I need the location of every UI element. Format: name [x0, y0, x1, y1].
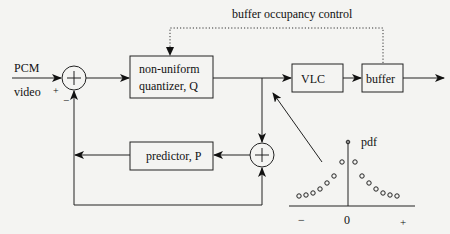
pdf-point: [367, 181, 371, 185]
minus-sign-label: −: [63, 94, 69, 106]
encoder-diagram: buffer occupancy control PCM video + − n…: [0, 0, 450, 234]
pdf-point: [318, 187, 322, 191]
buffer-control-dotted-line: [170, 28, 383, 63]
quantizer-label-line2: quantizer, Q: [139, 79, 198, 93]
control-arrowhead-icon: [166, 47, 174, 56]
axis-zero-label: 0: [344, 213, 350, 227]
subtractor-junction: [62, 66, 86, 90]
pdf-point: [395, 194, 399, 198]
pdf-point: [353, 160, 357, 164]
plus-sign-label: +: [53, 85, 59, 96]
pcm-label: PCM: [14, 61, 40, 75]
buffer-occupancy-label: buffer occupancy control: [232, 7, 353, 21]
pdf-point: [311, 191, 315, 195]
pdf-plot: [289, 140, 415, 206]
vlc-label: VLC: [301, 72, 325, 86]
pdf-point: [381, 191, 385, 195]
adder-junction: [250, 143, 274, 167]
pdf-point: [374, 187, 378, 191]
buffer-label: buffer: [366, 72, 395, 86]
pdf-point: [325, 181, 329, 185]
quantizer-label-line1: non-uniform: [139, 62, 200, 76]
pdf-point: [304, 193, 308, 197]
pdf-point: [297, 194, 301, 198]
pdf-point: [388, 193, 392, 197]
pdf-point: [340, 160, 344, 164]
prediction-loop-arrow: [74, 168, 262, 205]
video-label: video: [14, 85, 41, 99]
pdf-label: pdf: [361, 135, 377, 149]
axis-minus-label: −: [298, 213, 305, 227]
diagram-canvas: buffer occupancy control PCM video + − n…: [0, 0, 450, 234]
pdf-point: [360, 174, 364, 178]
predictor-label: predictor, P: [146, 149, 202, 163]
pdf-point: [332, 174, 336, 178]
axis-plus-label: +: [400, 216, 406, 228]
pdf-pointer-arrow: [273, 93, 322, 162]
